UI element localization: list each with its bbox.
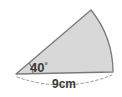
- angle-label-unit: °: [44, 61, 47, 70]
- sector-figure: 40° 9cm: [0, 0, 122, 97]
- sector-diagram-svg: 40° 9cm: [0, 0, 122, 97]
- angle-label-value: 40: [30, 60, 44, 75]
- radius-label: 9cm: [52, 77, 76, 91]
